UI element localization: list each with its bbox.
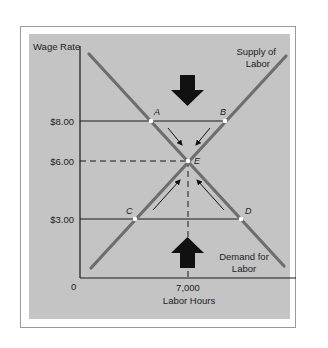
x-tick-7000: 7,000 bbox=[176, 282, 200, 293]
origin-label: 0 bbox=[71, 281, 76, 292]
demand-label-line1: Demand for bbox=[219, 251, 269, 262]
point-a-marker bbox=[149, 119, 154, 124]
point-c-label: C bbox=[126, 206, 133, 216]
y-axis-label: Wage Rate bbox=[33, 41, 80, 52]
big-down-arrow-icon bbox=[171, 75, 204, 106]
point-c-marker bbox=[133, 217, 138, 222]
point-a-label: A bbox=[153, 107, 160, 117]
point-d-marker bbox=[239, 217, 244, 222]
supply-demand-chart: Wage Rate Labor Hours 0 $8.00 $6.00 $3.0… bbox=[0, 0, 328, 348]
point-b-marker bbox=[223, 119, 228, 124]
x-axis-label: Labor Hours bbox=[163, 295, 216, 306]
big-up-arrow-icon bbox=[171, 237, 204, 268]
supply-label-line1: Supply of bbox=[236, 46, 276, 57]
point-d-label: D bbox=[245, 206, 252, 216]
y-tick-6: $6.00 bbox=[50, 156, 74, 167]
point-b-label: B bbox=[220, 107, 226, 117]
point-e-marker bbox=[186, 159, 191, 164]
y-tick-3: $3.00 bbox=[50, 214, 74, 225]
supply-label-line2: Labor bbox=[246, 58, 270, 69]
point-e-label: E bbox=[194, 156, 201, 166]
demand-label-line2: Labor bbox=[232, 263, 256, 274]
y-tick-8: $8.00 bbox=[50, 116, 74, 127]
